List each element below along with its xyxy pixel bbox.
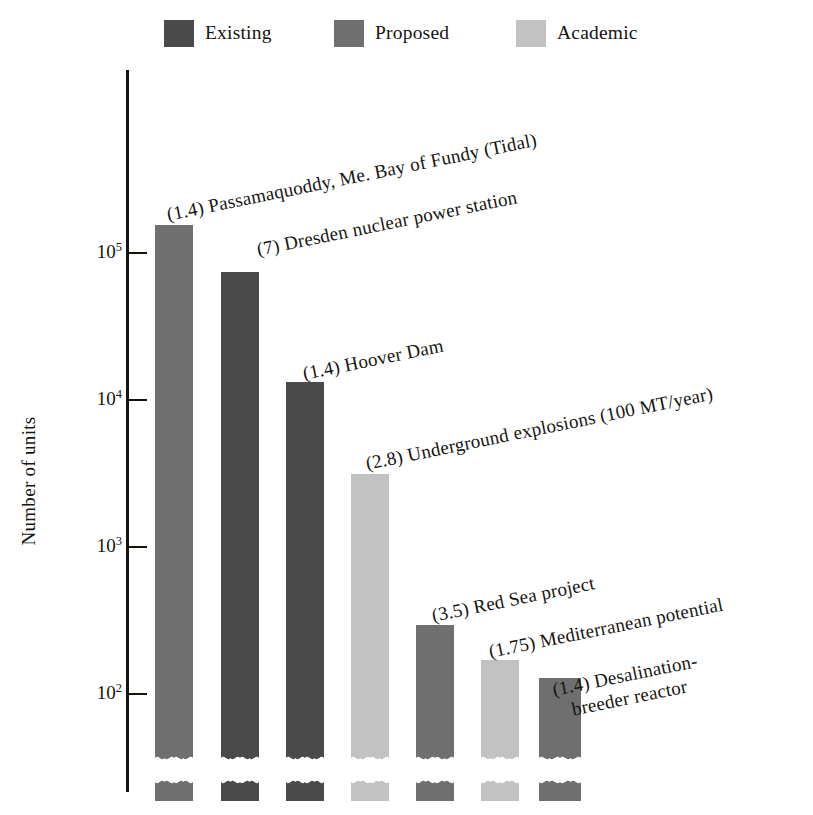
y-tick-label: 104 — [60, 387, 122, 409]
y-tick-exponent: 5 — [116, 240, 122, 254]
axis-break-wave-icon — [221, 753, 259, 763]
bar-upper-segment[interactable] — [286, 382, 324, 762]
axis-break-wave-icon — [539, 753, 581, 763]
chart-figure: Existing Proposed Academic Number of uni… — [0, 0, 813, 815]
axis-break-wave-icon — [481, 777, 519, 787]
bar-upper-segment[interactable] — [155, 225, 193, 762]
legend-item-existing[interactable]: Existing — [164, 14, 272, 52]
axis-break-wave-icon — [481, 753, 519, 763]
axis-break-wave-icon — [286, 753, 324, 763]
bar-annotation-label: (1.4) Hoover Dam — [301, 334, 446, 385]
y-tick-mark — [129, 399, 147, 401]
chart-legend: Existing Proposed Academic — [150, 14, 670, 54]
bar-annotation-line1: (2.8) Underground explosions (100 MT/yea… — [364, 383, 715, 474]
axis-break-wave-icon — [351, 777, 389, 787]
y-tick-label-text: 103 — [97, 534, 122, 557]
y-tick-mark — [129, 546, 147, 548]
bar-annotation-line1: (1.4) Hoover Dam — [301, 335, 445, 384]
axis-break-wave-icon — [286, 777, 324, 787]
legend-swatch-academic — [516, 20, 546, 47]
y-axis-title: Number of units — [18, 391, 40, 571]
y-tick-exponent: 4 — [116, 387, 122, 401]
bar-upper-segment[interactable] — [351, 474, 389, 762]
y-axis-line — [126, 70, 129, 792]
bar-annotation-label: (2.8) Underground explosions (100 MT/yea… — [364, 382, 715, 475]
legend-label-proposed: Proposed — [375, 22, 449, 44]
y-tick-mark — [129, 693, 147, 695]
y-tick-label-text: 105 — [97, 240, 122, 263]
legend-item-academic[interactable]: Academic — [516, 14, 638, 52]
y-tick-label-text: 104 — [97, 387, 122, 410]
legend-label-academic: Academic — [557, 22, 638, 44]
axis-break-wave-icon — [416, 777, 454, 787]
y-tick-exponent: 2 — [116, 681, 122, 695]
bar-upper-segment[interactable] — [481, 660, 519, 762]
bar-upper-segment[interactable] — [221, 272, 259, 762]
axis-break-wave-icon — [416, 753, 454, 763]
bar-annotation-line1: (3.5) Red Sea project — [430, 572, 597, 626]
y-tick-label: 105 — [60, 240, 122, 262]
legend-swatch-proposed — [334, 20, 364, 47]
legend-item-proposed[interactable]: Proposed — [334, 14, 449, 52]
legend-label-existing: Existing — [205, 22, 272, 44]
axis-break-wave-icon — [155, 753, 193, 763]
y-tick-label-text: 102 — [97, 681, 122, 704]
axis-break-wave-icon — [221, 777, 259, 787]
axis-break-wave-icon — [155, 777, 193, 787]
bar-annotation-label: (3.5) Red Sea project — [430, 571, 597, 627]
axis-break-wave-icon — [539, 777, 581, 787]
y-tick-label: 102 — [60, 681, 122, 703]
axis-break-wave-icon — [351, 753, 389, 763]
y-tick-mark — [129, 252, 147, 254]
y-tick-exponent: 3 — [116, 534, 122, 548]
bar-annotation-label: (1.4) Desalination-breeder reactor — [550, 649, 704, 724]
legend-swatch-existing — [164, 20, 194, 47]
y-tick-label: 103 — [60, 534, 122, 556]
bar-upper-segment[interactable] — [416, 625, 454, 762]
